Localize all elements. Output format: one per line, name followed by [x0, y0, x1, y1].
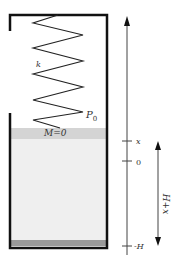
fluid-region: [10, 138, 107, 244]
tick-label-0: 0: [136, 158, 141, 167]
span-arrow-down-icon: [155, 237, 161, 246]
piston-mass-label: M=0: [43, 128, 67, 138]
spring: [33, 15, 83, 128]
tick-label-minus-h: -H: [134, 242, 145, 251]
pressure-label: P0: [85, 109, 97, 123]
span-arrow-up-icon: [155, 141, 161, 150]
spring-constant-label: k: [36, 60, 41, 69]
container-bottom-layer: [10, 240, 107, 246]
span-label: H+x: [161, 193, 171, 214]
spring-piston-diagram: k P0 M=0 x 0 -H H+x: [0, 0, 176, 265]
tick-label-x: x: [136, 137, 141, 146]
axis-arrow-up-icon: [124, 16, 130, 26]
